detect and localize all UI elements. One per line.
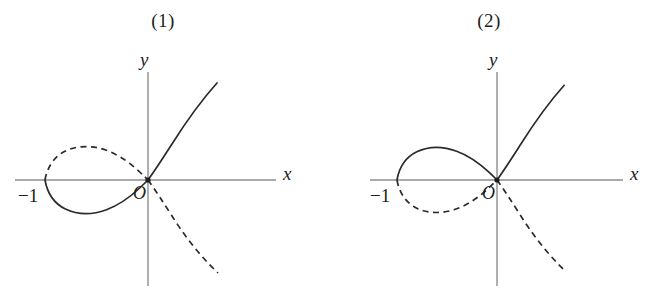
panel-2-x-tick-minus-one: −1 <box>370 185 390 206</box>
panel-1-origin-label: O <box>133 183 146 203</box>
panel-1-x-tick-minus-one: −1 <box>18 185 38 206</box>
panel-2-plot: x y −1 O <box>326 0 651 296</box>
panel-1-y-axis-label: y <box>138 49 149 70</box>
panel-2-loop-upper-solid <box>397 148 497 180</box>
figure-panel-1: (1) x y −1 O <box>0 0 326 296</box>
panel-1-right-lower-dashed <box>148 180 218 273</box>
panel-1-x-axis-label: x <box>282 163 292 184</box>
panel-2-x-axis-label: x <box>629 163 639 184</box>
panel-2-origin-label: O <box>482 183 495 203</box>
panel-1-right-upper-solid <box>148 83 217 180</box>
panel-2-right-lower-dashed <box>497 180 565 271</box>
panel-2-right-upper-solid <box>497 85 564 180</box>
panel-2-origin-dot <box>494 177 499 182</box>
panel-1-plot: x y −1 O <box>0 0 326 296</box>
panel-2-y-axis-label: y <box>487 49 498 70</box>
figure-panel-2: (2) x y −1 O <box>326 0 651 296</box>
figure-sheet: (1) x y −1 O (2) <box>0 0 651 296</box>
panel-1-origin-dot <box>145 177 150 182</box>
panel-1-loop-upper-dashed <box>45 147 148 180</box>
